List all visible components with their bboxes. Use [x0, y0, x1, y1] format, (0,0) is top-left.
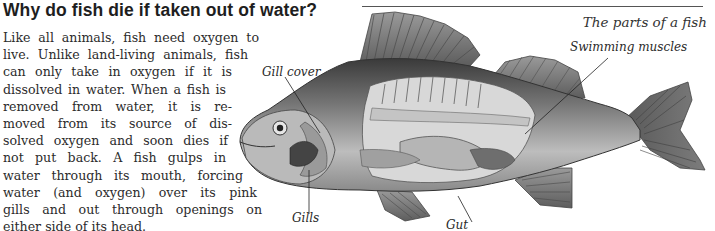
dorsal-fin [360, 12, 480, 66]
label-swimming-muscles: Swimming muscles [570, 40, 687, 54]
label-gut: Gut [446, 218, 468, 231]
figure-caption: The parts of a fish [583, 14, 707, 30]
pelvic-fin [377, 190, 430, 221]
label-gill-cover: Gill cover [262, 65, 320, 79]
fish-anatomy-illustration [0, 0, 715, 231]
label-gills: Gills [292, 211, 319, 225]
